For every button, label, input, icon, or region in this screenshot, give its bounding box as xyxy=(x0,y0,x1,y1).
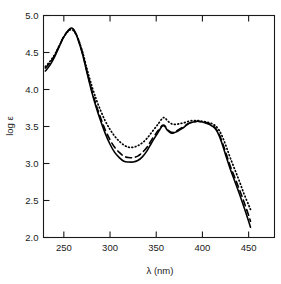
tick-mark-group xyxy=(44,16,249,238)
x-axis-title: λ (nm) xyxy=(147,265,174,276)
y-axis-tick-label-group: 2.02.53.03.54.04.55.0 xyxy=(25,10,38,243)
y-axis-tick-label: 2.5 xyxy=(25,195,38,206)
y-axis-tick-label: 2.0 xyxy=(25,232,38,243)
data-series-dashed xyxy=(45,29,250,221)
x-axis-tick-label: 350 xyxy=(148,242,164,253)
x-axis-tick-label: 400 xyxy=(194,242,210,253)
y-axis-title: log ε xyxy=(4,115,15,135)
y-axis-tick-label: 3.5 xyxy=(25,121,38,132)
x-axis-tick-label: 450 xyxy=(241,242,257,253)
plot-frame xyxy=(44,16,275,238)
y-axis-tick-label: 4.0 xyxy=(25,84,38,95)
spectrum-chart: 2.02.53.03.54.04.55.0 250300350400450 λ … xyxy=(0,0,281,284)
chart-canvas: 2.02.53.03.54.04.55.0 250300350400450 λ … xyxy=(0,0,281,284)
y-axis-tick-label: 3.0 xyxy=(25,158,38,169)
y-axis-tick-label: 5.0 xyxy=(25,10,38,21)
y-axis-tick-label: 4.5 xyxy=(25,47,38,58)
data-series-solid xyxy=(45,28,250,227)
data-series-dotted xyxy=(45,30,250,210)
x-axis-tick-label: 250 xyxy=(56,242,72,253)
x-axis-tick-label: 300 xyxy=(102,242,118,253)
data-series-group xyxy=(45,28,250,227)
x-axis-tick-label-group: 250300350400450 xyxy=(56,242,257,253)
